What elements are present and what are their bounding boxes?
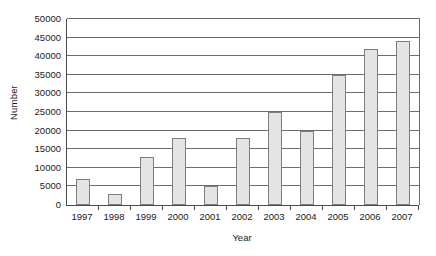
y-axis-tick-labels: 0500010000150002000025000300003500040000… xyxy=(20,19,64,205)
bar xyxy=(364,49,378,205)
y-axis-tick-label: 5000 xyxy=(40,182,61,192)
x-axis-tick-mark xyxy=(226,205,227,210)
x-axis-title: Year xyxy=(66,232,418,243)
x-axis-tick-mark xyxy=(98,205,99,210)
bar-slot xyxy=(259,19,291,205)
x-axis-tick-mark xyxy=(322,205,323,210)
x-axis-tick-label: 1999 xyxy=(130,211,162,222)
bar xyxy=(76,179,90,205)
x-axis-tick-label: 2006 xyxy=(354,211,386,222)
x-axis-tick-label: 1998 xyxy=(98,211,130,222)
y-axis-tick-label: 45000 xyxy=(35,33,61,43)
x-axis-tick-mark xyxy=(418,205,419,210)
x-axis-tick-mark xyxy=(258,205,259,210)
bar xyxy=(268,112,282,205)
x-axis-tick-labels: 1997199819992000200120022003200420052006… xyxy=(66,211,418,222)
y-axis-tick-label: 20000 xyxy=(35,126,61,136)
x-axis-tick-label: 2005 xyxy=(322,211,354,222)
bar-slot xyxy=(291,19,323,205)
y-axis-tick-label: 40000 xyxy=(35,51,61,61)
x-axis-tick-mark xyxy=(290,205,291,210)
x-axis-tick-marks xyxy=(66,205,418,210)
x-axis-tick-label: 1997 xyxy=(66,211,98,222)
x-axis-tick-label: 2007 xyxy=(386,211,418,222)
x-axis-tick-mark xyxy=(162,205,163,210)
bar-slot xyxy=(323,19,355,205)
bar xyxy=(108,194,122,205)
x-axis-tick-mark xyxy=(354,205,355,210)
bar-slot xyxy=(227,19,259,205)
bar xyxy=(300,131,314,205)
bar xyxy=(140,157,154,205)
bar xyxy=(236,138,250,205)
bar xyxy=(332,75,346,205)
bar-slot xyxy=(355,19,387,205)
bar-slot xyxy=(195,19,227,205)
bar xyxy=(172,138,186,205)
x-axis-tick-mark xyxy=(386,205,387,210)
y-axis-tick-label: 10000 xyxy=(35,163,61,173)
bar-slot xyxy=(99,19,131,205)
bar-series xyxy=(67,19,419,205)
x-axis-tick-mark xyxy=(130,205,131,210)
y-axis-tick-label: 15000 xyxy=(35,144,61,154)
plot-right-edge xyxy=(419,18,420,205)
y-axis-tick-label: 35000 xyxy=(35,70,61,80)
bar-chart: Number 050001000015000200002500030000350… xyxy=(0,0,436,256)
bar-slot xyxy=(387,19,419,205)
y-axis-tick-label: 50000 xyxy=(35,14,61,24)
y-axis-tick-label: 25000 xyxy=(35,107,61,117)
y-axis-tick-label: 30000 xyxy=(35,89,61,99)
bar-slot xyxy=(67,19,99,205)
bar-slot xyxy=(131,19,163,205)
y-axis-title-text: Number xyxy=(8,85,19,120)
x-axis-tick-label: 2000 xyxy=(162,211,194,222)
y-axis-tick-label: 0 xyxy=(56,200,61,210)
x-axis-tick-label: 2001 xyxy=(194,211,226,222)
x-axis-tick-label: 2004 xyxy=(290,211,322,222)
bar xyxy=(204,186,218,205)
x-axis-tick-label: 2002 xyxy=(226,211,258,222)
bar xyxy=(396,41,410,205)
plot-area xyxy=(66,19,419,206)
x-axis-tick-mark xyxy=(194,205,195,210)
x-axis-tick-label: 2003 xyxy=(258,211,290,222)
bar-slot xyxy=(163,19,195,205)
